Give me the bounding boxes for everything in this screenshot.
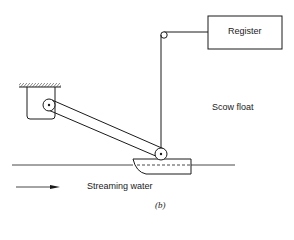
arm-edge-bottom xyxy=(46,109,158,157)
register-label: Register xyxy=(228,26,262,36)
streaming-water-label: Streaming water xyxy=(87,181,153,191)
fixed-support-hatch xyxy=(19,83,61,87)
top-pivot-pin xyxy=(48,104,50,106)
figure-caption: (b) xyxy=(155,200,166,210)
arm-edge-top xyxy=(52,100,164,149)
flow-arrow-icon xyxy=(50,185,60,189)
scow-float xyxy=(133,159,191,174)
scow-float-label: Scow float xyxy=(212,102,254,112)
float-pivot-pin xyxy=(160,153,162,155)
pulley xyxy=(161,32,167,38)
